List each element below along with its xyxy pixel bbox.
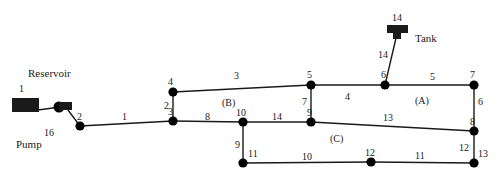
node-label-9: 9 (307, 108, 312, 118)
node-label-6: 6 (381, 70, 386, 80)
tank-label: Tank (415, 33, 437, 44)
node-label-12: 12 (365, 148, 375, 158)
pipe-label-8: 8 (205, 112, 210, 122)
pipe-label-11: 11 (415, 151, 425, 161)
node-2-dot (75, 121, 84, 130)
pipe-3-line (173, 85, 311, 92)
pipe-label-3: 3 (234, 71, 239, 81)
pipe-10-line (243, 162, 371, 163)
tank-symbol (387, 25, 408, 39)
node-7-dot (469, 80, 478, 89)
pipe-label-9: 9 (235, 140, 240, 150)
pipe-label-5: 5 (430, 72, 435, 82)
zone-c-label: (C) (330, 134, 343, 144)
node-3-dot (168, 116, 177, 125)
pump-label: Pump (16, 139, 42, 150)
node-label-14: 14 (392, 13, 402, 23)
reservoir-symbol (12, 98, 39, 112)
node-6-dot (380, 80, 389, 89)
reservoir-label: Reservoir (28, 68, 71, 79)
node-label-8: 8 (470, 117, 475, 127)
pipe-14-tank-line (385, 38, 396, 85)
node-label-7: 7 (470, 70, 475, 80)
node-5-dot (306, 80, 315, 89)
network-diagram: Reservoir Pump Tank (A) (B) (C) 1 2 3 4 … (0, 0, 501, 182)
pipe-label-14-tank: 14 (378, 50, 388, 60)
pipe-label-13: 13 (383, 113, 393, 123)
node-11-dot (238, 158, 247, 167)
node-label-11: 11 (248, 149, 258, 159)
node-label-10: 10 (236, 108, 246, 118)
zone-b-label: (B) (222, 98, 235, 108)
node-12-dot (366, 157, 375, 166)
zone-a-label: (A) (415, 96, 429, 106)
node-9-dot (306, 117, 315, 126)
pipe-label-2: 2 (164, 101, 169, 111)
node-label-1: 1 (19, 84, 24, 94)
pipe-label-12: 12 (459, 143, 469, 153)
pipe-label-7: 7 (302, 97, 307, 107)
pipe-label-6: 6 (478, 97, 483, 107)
node-label-5: 5 (307, 70, 312, 80)
pipe-13-line (311, 122, 474, 131)
pipe-lines (38, 38, 474, 163)
node-label-2: 2 (77, 112, 82, 122)
node-label-4: 4 (168, 77, 173, 87)
node-8-dot (469, 126, 478, 135)
pipe-label-4: 4 (345, 92, 350, 102)
pipe-label-10: 10 (302, 152, 312, 162)
node-10-dot (238, 117, 247, 126)
node-4-dot (168, 87, 177, 96)
pipe-label-14: 14 (272, 112, 282, 122)
pipe-label-16: 16 (44, 128, 54, 138)
pipe-label-1: 1 (122, 112, 127, 122)
pipe-11-line (371, 162, 474, 163)
node-13-dot (469, 158, 478, 167)
node-label-13: 13 (478, 149, 488, 159)
